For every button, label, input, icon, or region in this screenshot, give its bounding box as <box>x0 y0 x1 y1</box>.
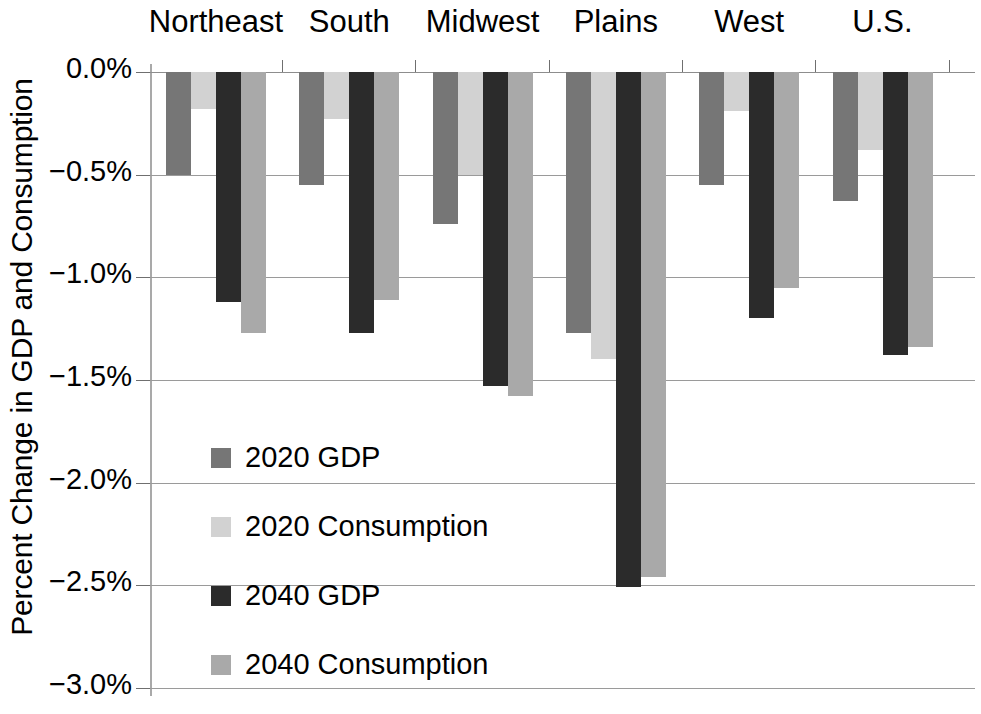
category-axis-tick <box>549 60 550 72</box>
category-axis-tick <box>415 60 416 72</box>
bar <box>508 72 533 396</box>
bar <box>616 72 641 587</box>
category-axis-labels: NortheastSouthMidwestPlainsWestU.S. <box>0 4 981 52</box>
bar <box>591 72 616 359</box>
y-axis-tick-label: −1.0% <box>0 257 132 290</box>
y-axis-tick <box>136 72 150 73</box>
category-axis-tick <box>815 60 816 72</box>
y-axis-tick <box>136 380 150 381</box>
y-axis-tick-label: −3.0% <box>0 668 132 701</box>
category-label-west: West <box>714 4 784 40</box>
bar <box>324 72 349 119</box>
legend-swatch-icon <box>211 586 231 606</box>
category-label-u-s: U.S. <box>852 4 912 40</box>
legend-swatch-icon <box>211 655 231 675</box>
y-axis-tick <box>136 175 150 176</box>
y-axis-tick <box>136 585 150 586</box>
bar <box>724 72 749 111</box>
y-axis-tick-labels: 0.0%−0.5%−1.0%−1.5%−2.0%−2.5%−3.0% <box>0 0 150 714</box>
y-axis-tick-label: −0.5% <box>0 155 132 188</box>
category-label-plains: Plains <box>574 4 658 40</box>
bar <box>241 72 266 333</box>
legend-label: 2020 GDP <box>245 441 380 474</box>
bar <box>299 72 324 185</box>
legend-label: 2040 GDP <box>245 579 380 612</box>
bar <box>858 72 883 150</box>
y-axis-tick-label: −2.5% <box>0 565 132 598</box>
gridline <box>150 277 975 278</box>
legend-item[interactable]: 2020 GDP <box>211 423 541 492</box>
legend-item[interactable]: 2040 GDP <box>211 561 541 630</box>
legend-swatch-icon <box>211 448 231 468</box>
legend-label: 2020 Consumption <box>245 510 488 543</box>
y-axis-tick <box>136 483 150 484</box>
category-axis-tick <box>682 60 683 72</box>
bar <box>216 72 241 302</box>
y-axis-tick-label: 0.0% <box>0 52 132 85</box>
category-label-northeast: Northeast <box>149 4 283 40</box>
chart-legend: 2020 GDP2020 Consumption2040 GDP2040 Con… <box>211 423 541 699</box>
bar <box>433 72 458 224</box>
category-axis-tick <box>949 60 950 72</box>
bar <box>166 72 191 175</box>
bar <box>483 72 508 386</box>
category-label-south: South <box>309 4 390 40</box>
legend-swatch-icon <box>211 517 231 537</box>
bar <box>641 72 666 577</box>
bar <box>374 72 399 300</box>
bar <box>566 72 591 333</box>
bar <box>191 72 216 109</box>
bar <box>833 72 858 201</box>
bar <box>749 72 774 318</box>
bar <box>349 72 374 333</box>
bar <box>774 72 799 288</box>
bar <box>908 72 933 347</box>
gridline <box>150 380 975 381</box>
y-axis-tick <box>136 688 150 689</box>
legend-item[interactable]: 2040 Consumption <box>211 630 541 699</box>
y-axis-tick-label: −1.5% <box>0 360 132 393</box>
legend-item[interactable]: 2020 Consumption <box>211 492 541 561</box>
category-label-midwest: Midwest <box>426 4 540 40</box>
y-axis-tick-label: −2.0% <box>0 463 132 496</box>
y-axis-tick <box>136 277 150 278</box>
category-axis-tick <box>282 60 283 72</box>
bar <box>458 72 483 175</box>
bar-chart: Percent Change in GDP and Consumption 0.… <box>0 0 981 714</box>
bar <box>883 72 908 355</box>
legend-label: 2040 Consumption <box>245 648 488 681</box>
bar <box>699 72 724 185</box>
